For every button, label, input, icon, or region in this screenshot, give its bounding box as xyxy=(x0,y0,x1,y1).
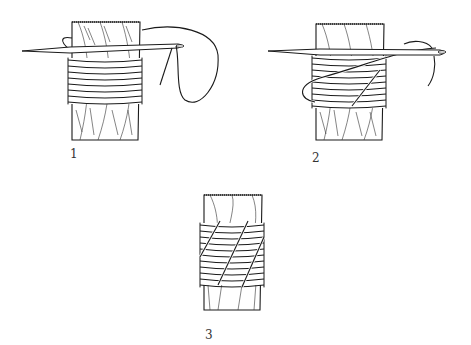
whipping-step-1-drawing xyxy=(0,0,240,150)
twine-turns xyxy=(68,58,142,104)
figure-step-1 xyxy=(0,0,240,150)
needle-icon xyxy=(268,49,446,55)
whipping-step-3-drawing xyxy=(190,185,280,325)
step-label-3: 3 xyxy=(205,329,213,341)
twine-turns xyxy=(312,56,386,108)
figure-step-3 xyxy=(190,185,280,325)
figure-step-2 xyxy=(240,0,471,150)
step-label-1: 1 xyxy=(70,148,78,160)
whipping-step-2-drawing xyxy=(240,0,471,150)
step-label-2: 2 xyxy=(312,152,320,164)
